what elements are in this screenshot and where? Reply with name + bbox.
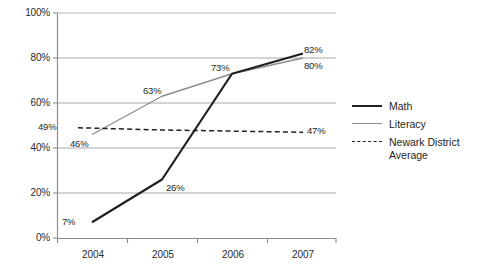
- series-line-math: [92, 54, 303, 223]
- data-label-math-2005: 26%: [166, 182, 184, 193]
- legend-item-math: Math: [352, 100, 498, 113]
- series-line-literacy: [92, 58, 303, 135]
- y-axis-label-0: 0%: [6, 232, 50, 243]
- data-label-district-2004: 49%: [38, 121, 56, 132]
- x-axis-label-2007: 2007: [271, 249, 335, 260]
- dashed-line-icon: [352, 136, 382, 148]
- data-label-literacy-2007: 80%: [304, 60, 322, 71]
- data-label-literacy-2005: 63%: [143, 85, 161, 96]
- x-axis-label-2004: 2004: [62, 249, 124, 260]
- line-chart: 100% 80% 60% 40% 20% 0% 2004 2005 2006 2…: [0, 0, 502, 275]
- legend-item-newark-district-average: Newark District Average: [352, 136, 498, 162]
- series-line-newark-district-average: [78, 128, 303, 133]
- legend-item-literacy: Literacy: [352, 118, 498, 131]
- chart-legend: Math Literacy Newark District Average: [352, 100, 498, 167]
- data-label-district-2007: 47%: [307, 125, 325, 136]
- gridlines: [57, 13, 336, 193]
- solid-dark-line-icon: [352, 100, 382, 112]
- y-axis-label-60: 60%: [6, 97, 50, 108]
- solid-gray-line-icon: [352, 118, 382, 130]
- x-axis-label-2005: 2005: [132, 249, 194, 260]
- data-label-math-2006: 73%: [211, 62, 229, 73]
- x-axis-label-2006: 2006: [202, 249, 264, 260]
- legend-label-math: Math: [389, 100, 412, 113]
- data-label-math-2004: 7%: [62, 216, 75, 227]
- legend-label-literacy: Literacy: [389, 118, 426, 131]
- y-axis-label-20: 20%: [6, 187, 50, 198]
- y-axis-label-80: 80%: [6, 52, 50, 63]
- legend-label-newark-district-average: Newark District Average: [389, 136, 498, 162]
- y-axis-label-100: 100%: [6, 7, 50, 18]
- data-label-literacy-2004: 46%: [70, 138, 88, 149]
- data-label-math-2007: 82%: [304, 44, 322, 55]
- y-axis-label-40: 40%: [6, 142, 50, 153]
